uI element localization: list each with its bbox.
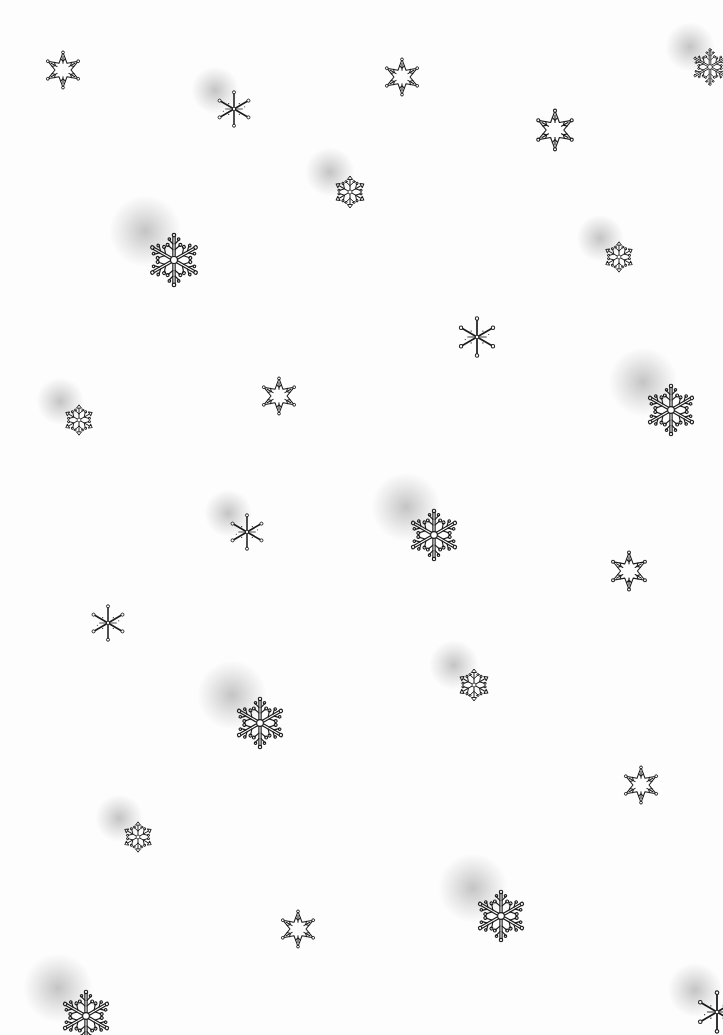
thin-star-snowflake-icon xyxy=(209,494,247,532)
star-outline-snowflake-icon xyxy=(587,529,629,571)
branched-snowflake-icon xyxy=(445,860,501,916)
round-snowflake-icon xyxy=(100,799,138,837)
thin-star-snowflake-icon xyxy=(70,585,108,623)
branched-snowflake-icon xyxy=(615,354,671,410)
branched-snowflake-icon xyxy=(30,960,86,1016)
branched-snowflake-icon xyxy=(670,27,710,67)
thin-star-snowflake-icon xyxy=(196,71,234,109)
thin-star-snowflake-icon xyxy=(673,968,717,1012)
star-outline-snowflake-icon xyxy=(258,889,298,929)
branched-snowflake-icon xyxy=(204,667,260,723)
star-outline-snowflake-icon xyxy=(239,356,279,396)
round-snowflake-icon xyxy=(41,382,79,420)
branched-snowflake-icon xyxy=(378,479,434,535)
star-outline-snowflake-icon xyxy=(601,745,641,785)
branched-snowflake-icon xyxy=(116,202,174,260)
star-outline-snowflake-icon xyxy=(511,86,555,130)
star-outline-snowflake-icon xyxy=(23,30,63,70)
round-snowflake-icon xyxy=(310,152,350,192)
thin-star-snowflake-icon xyxy=(435,295,477,337)
round-snowflake-icon xyxy=(581,219,619,257)
round-snowflake-icon xyxy=(434,645,474,685)
star-outline-snowflake-icon xyxy=(362,37,402,77)
